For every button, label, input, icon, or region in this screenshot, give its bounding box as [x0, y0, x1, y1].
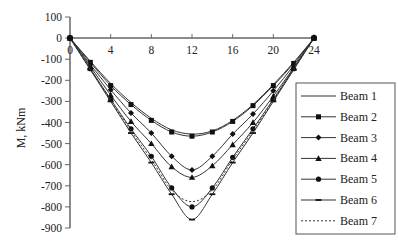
- x-tick-label: 24: [308, 44, 320, 56]
- y-tick-label: -100: [41, 53, 62, 65]
- y-tick-label: -200: [41, 74, 62, 86]
- legend-label: Beam 3: [340, 131, 377, 145]
- y-tick-label: -900: [41, 222, 62, 234]
- x-axis: 04812162024: [67, 34, 320, 56]
- x-tick-label: 16: [227, 44, 239, 56]
- x-tick-label: 8: [148, 44, 154, 56]
- x-tick-label: 0: [67, 44, 73, 56]
- x-tick-label: 20: [268, 44, 280, 56]
- y-axis: 1000-100-200-300-400-500-600-700-800-900: [41, 11, 70, 234]
- y-tick-label: 100: [45, 11, 63, 23]
- legend: Beam 1Beam 2Beam 3Beam 4Beam 5Beam 6Beam…: [296, 83, 395, 234]
- y-tick-label: -700: [41, 180, 62, 192]
- series-beam-5: [67, 36, 316, 210]
- x-tick-label: 4: [108, 44, 114, 56]
- series-beam-6: [67, 38, 317, 219]
- legend-label: Beam 2: [340, 110, 377, 124]
- bending-moment-chart: 1000-100-200-300-400-500-600-700-800-900…: [0, 0, 398, 246]
- legend-label: Beam 7: [340, 214, 377, 228]
- y-tick-label: -500: [41, 138, 62, 150]
- y-tick-label: -400: [41, 117, 62, 129]
- series-layer: [67, 35, 317, 220]
- y-axis-title: M, kNm: [14, 107, 28, 148]
- series-beam-4: [67, 35, 317, 180]
- y-tick-label: -800: [41, 201, 62, 213]
- legend-label: Beam 1: [340, 89, 377, 103]
- legend-label: Beam 5: [340, 172, 377, 186]
- y-tick-label: 0: [56, 32, 62, 44]
- y-tick-label: -300: [41, 95, 62, 107]
- y-tick-label: -600: [41, 159, 62, 171]
- x-tick-label: 12: [186, 44, 198, 56]
- legend-label: Beam 6: [340, 193, 377, 207]
- legend-label: Beam 4: [340, 151, 377, 165]
